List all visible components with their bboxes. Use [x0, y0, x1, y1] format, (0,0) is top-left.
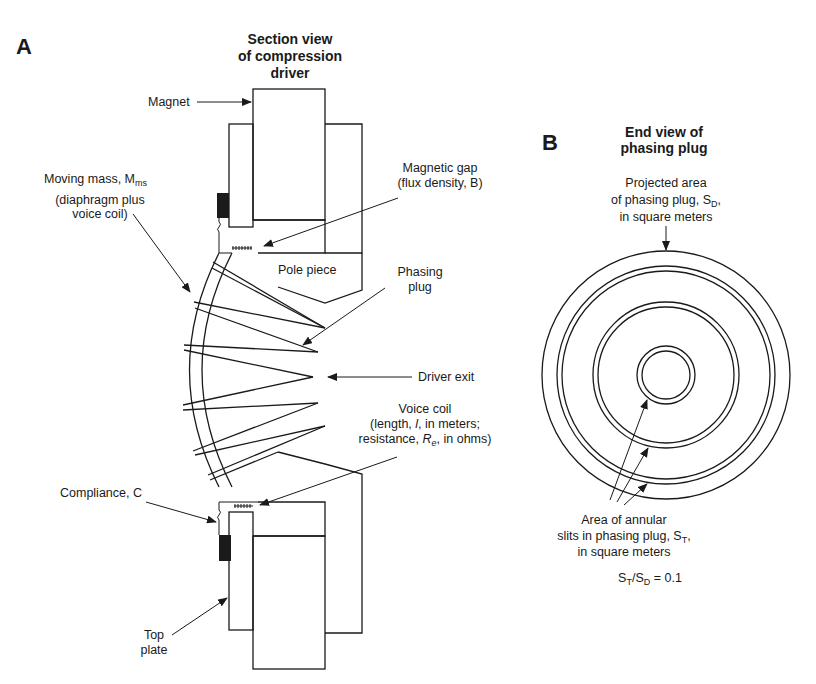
- upper-compliance-surround: [218, 218, 221, 253]
- upper-black-ring: [217, 193, 229, 218]
- label-driver-exit: Driver exit: [328, 370, 475, 384]
- panel-b: B End view of phasing plug Projected are…: [542, 124, 790, 587]
- panel-b-title-line-2: phasing plug: [620, 140, 707, 156]
- svg-text:in square meters: in square meters: [619, 210, 712, 224]
- slit-2-inner: [598, 307, 734, 443]
- svg-text:Area of annular: Area of annular: [581, 513, 666, 527]
- title-line-3: driver: [271, 65, 310, 81]
- label-moving-mass: Moving mass, Mms (diaphragm plus voice c…: [44, 172, 190, 292]
- lower-top-plate: [229, 512, 253, 630]
- lower-compliance-surround: [218, 502, 221, 535]
- label-magnet: Magnet: [148, 95, 251, 109]
- svg-text:of phasing plug, SD,: of phasing plug, SD,: [611, 193, 721, 209]
- svg-text:(length, l, in meters;: (length, l, in meters;: [370, 417, 480, 431]
- svg-text:plug: plug: [408, 280, 432, 294]
- svg-text:Projected area: Projected area: [625, 176, 706, 190]
- svg-text:resistance, Re, in ohms): resistance, Re, in ohms): [359, 432, 492, 448]
- label-magnetic-gap: Magnetic gap (flux density, B): [264, 161, 483, 246]
- svg-text:plate: plate: [140, 643, 167, 657]
- svg-text:Moving mass, Mms: Moving mass, Mms: [44, 172, 147, 188]
- upper-top-plate: [229, 124, 253, 227]
- upper-pole-piece-block: [253, 220, 325, 253]
- label-compliance: Compliance, C: [60, 486, 216, 522]
- svg-text:in square meters: in square meters: [577, 545, 670, 559]
- svg-text:Top: Top: [144, 628, 164, 642]
- phasing-plug-outline: [278, 253, 362, 490]
- svg-text:Phasing: Phasing: [397, 265, 442, 279]
- slit-1-inner: [642, 351, 690, 399]
- lower-black-ring: [219, 535, 231, 561]
- svg-text:slits in phasing plug, ST,: slits in phasing plug, ST,: [557, 529, 690, 545]
- lower-voice-coil: [234, 504, 253, 508]
- annular-slit-arrows: [610, 400, 648, 505]
- svg-text:Magnetic gap: Magnetic gap: [402, 161, 477, 175]
- lower-magnet-assembly: [218, 490, 363, 669]
- upper-magnet-assembly: [217, 89, 362, 253]
- svg-text:Magnet: Magnet: [148, 95, 190, 109]
- svg-text:(flux density, B): (flux density, B): [397, 176, 482, 190]
- svg-text:Driver exit: Driver exit: [418, 370, 475, 384]
- upper-voice-coil: [232, 246, 252, 250]
- svg-text:(diaphragm plus: (diaphragm plus: [55, 193, 145, 207]
- label-pole-piece: Pole piece: [278, 263, 336, 277]
- lower-housing-outline: [325, 490, 362, 633]
- compression-driver-diagram: A Section view of compression driver: [0, 0, 816, 684]
- svg-text:Voice coil: Voice coil: [399, 402, 452, 416]
- phasing-plug-upper-edge: [278, 253, 362, 303]
- label-annular-slits: Area of annular slits in phasing plug, S…: [557, 513, 690, 559]
- label-top-plate: Top plate: [140, 598, 227, 657]
- panel-b-title-line-1: End view of: [625, 124, 703, 140]
- upper-housing-outline: [325, 124, 362, 253]
- phasing-plug-end-view: [542, 251, 790, 499]
- ratio-equation: ST/SD = 0.1: [618, 571, 682, 587]
- label-voice-coil: Voice coil (length, l, in meters; resist…: [260, 402, 491, 505]
- phasing-plug-slits: [183, 262, 325, 480]
- svg-text:voice coil): voice coil): [72, 207, 128, 221]
- lower-magnet: [253, 536, 325, 669]
- label-phasing-plug: Phasing plug: [303, 265, 443, 345]
- panel-a-letter: A: [16, 34, 32, 59]
- diaphragm-outer-curve: [190, 253, 220, 487]
- label-projected-area: Projected area of phasing plug, SD, in s…: [611, 176, 721, 250]
- slit-2-outer: [593, 302, 739, 448]
- panel-a: A Section view of compression driver: [16, 31, 491, 669]
- panel-a-title: Section view of compression driver: [238, 31, 342, 81]
- title-line-2: of compression: [238, 48, 342, 64]
- title-line-1: Section view: [248, 31, 333, 47]
- upper-magnet: [253, 89, 325, 220]
- slit-3-outer: [557, 266, 775, 484]
- lower-pole-piece-block: [253, 502, 325, 536]
- slit-1-outer: [637, 346, 695, 404]
- outer-circle: [542, 251, 790, 499]
- panel-b-letter: B: [542, 130, 558, 155]
- svg-text:Compliance, C: Compliance, C: [60, 486, 142, 500]
